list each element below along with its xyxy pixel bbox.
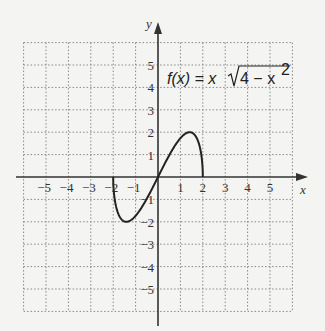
y-tick-label: 3 (148, 103, 155, 118)
y-tick-label: 5 (148, 58, 155, 73)
x-tick-label: −1 (127, 180, 141, 195)
x-tick-label: 2 (200, 180, 207, 195)
x-tick-label: 3 (222, 180, 229, 195)
function-plot: x y −5−4−3−2−112345−5−4−3−2−112345 f(x) … (0, 0, 325, 331)
y-tick-label: −5 (140, 282, 154, 297)
x-tick-label: 4 (244, 180, 251, 195)
x-tick-label: −4 (60, 180, 74, 195)
y-axis-arrow-icon (154, 22, 162, 34)
x-tick-label: −5 (37, 180, 51, 195)
x-axis-label: x (299, 182, 306, 197)
y-axis-label: y (144, 16, 152, 31)
x-tick-label: 1 (177, 180, 184, 195)
x-tick-label: −3 (82, 180, 96, 195)
y-tick-label: −3 (140, 237, 154, 252)
y-tick-label: 4 (148, 80, 155, 95)
y-tick-label: 2 (148, 125, 155, 140)
x-tick-label: 5 (267, 180, 274, 195)
y-tick-label: −2 (140, 215, 154, 230)
y-tick-label: 1 (148, 148, 155, 163)
x-tick-label: −2 (104, 180, 118, 195)
svg-text:f(x) = x: f(x) = x (167, 70, 217, 87)
equation-lhs: f(x) = x (167, 70, 217, 87)
equation-radicand: 4 − x (240, 70, 275, 87)
x-axis-arrow-icon (296, 173, 308, 181)
y-tick-label: −4 (140, 260, 154, 275)
equation-exponent: 2 (281, 61, 290, 78)
